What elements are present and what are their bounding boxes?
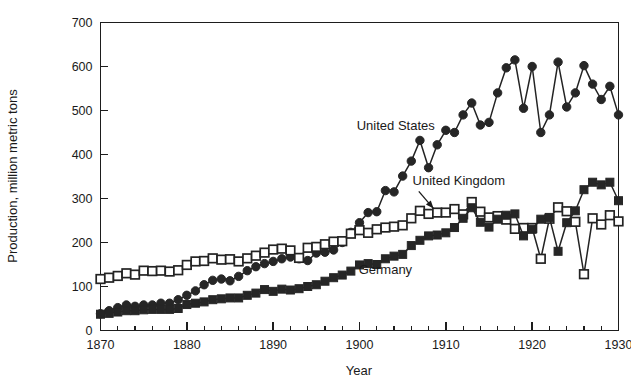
x-tick-label: 1930 [605,338,631,352]
data-point [122,269,131,278]
data-point [286,286,294,294]
data-point [597,181,605,189]
data-point [183,301,191,309]
data-point [355,226,364,235]
data-point [537,215,545,223]
data-point [191,287,199,295]
data-point [174,305,182,313]
data-point [416,236,424,244]
data-point [97,310,105,318]
y-tick-label: 600 [72,60,93,74]
data-point [476,121,484,129]
data-point [468,204,476,212]
data-point [183,291,191,299]
ticks-group [101,23,619,331]
data-point [407,242,415,250]
y-tick-label: 700 [72,16,93,30]
data-series-group [96,56,623,319]
data-point [338,271,346,279]
data-point [321,240,330,249]
data-point [131,270,140,279]
annotation-label-united-kingdom: United Kingdom [413,173,506,188]
data-point [321,277,329,285]
data-point [606,82,614,90]
data-point [433,231,441,239]
data-point [166,305,174,313]
data-point [528,62,536,70]
tick-labels-group: 0100200300400500600700187018801890190019… [72,16,631,352]
data-point [381,223,390,232]
data-point [304,256,312,264]
data-point [519,104,527,112]
data-point [252,289,260,297]
annotation-label-united-states: United States [357,118,436,133]
coal-production-chart-figure: 0100200300400500600700187018801890190019… [0,0,631,385]
data-point [295,254,304,263]
data-point [234,272,242,280]
data-point [278,255,286,263]
data-point [235,294,243,302]
y-tick-label: 100 [72,280,93,294]
data-point [597,220,606,229]
y-tick-label: 500 [72,104,93,118]
data-point [347,267,355,275]
y-tick-label: 200 [72,236,93,250]
data-point [278,285,286,293]
data-point [442,229,450,237]
data-point [468,99,476,107]
data-point [122,307,130,315]
data-point [157,305,165,313]
data-point [243,291,251,299]
data-point [303,243,312,252]
data-point [485,223,493,231]
x-tick-label: 1920 [518,338,546,352]
data-point [588,80,596,88]
data-point [407,214,416,223]
data-point [606,211,615,220]
x-tick-label: 1900 [346,338,374,352]
data-point [511,210,519,218]
data-point [450,224,458,232]
data-point [131,307,139,315]
data-point [226,294,234,302]
data-point [485,118,493,126]
data-point [278,244,287,253]
data-point [312,281,320,289]
y-tick-label: 300 [72,192,93,206]
data-point [433,141,441,149]
data-point [226,255,235,264]
data-point [139,266,148,275]
data-point [485,213,494,222]
data-point [234,257,243,266]
data-point [373,208,381,216]
data-point [140,306,148,314]
data-point [330,274,338,282]
x-axis-title: Year [346,363,373,378]
data-point [502,211,510,219]
data-point [217,255,226,264]
data-point [390,222,399,231]
data-point [114,308,122,316]
x-tick-label: 1870 [87,338,115,352]
data-point [416,207,425,216]
data-point [494,215,502,223]
data-point [424,164,432,172]
y-tick-label: 400 [72,148,93,162]
data-point [571,207,579,215]
x-tick-label: 1910 [432,338,460,352]
data-point [269,245,278,254]
data-point [381,186,389,194]
data-point [545,213,553,221]
data-point [537,128,545,136]
data-point [191,257,200,266]
data-point [580,186,588,194]
chart-canvas: 0100200300400500600700187018801890190019… [0,0,631,385]
data-point [364,208,372,216]
data-point [191,299,199,307]
data-point [563,219,571,227]
data-point [252,263,260,271]
data-point [347,229,356,238]
axes-group [101,23,619,331]
data-point [493,89,501,97]
data-point [588,214,597,223]
